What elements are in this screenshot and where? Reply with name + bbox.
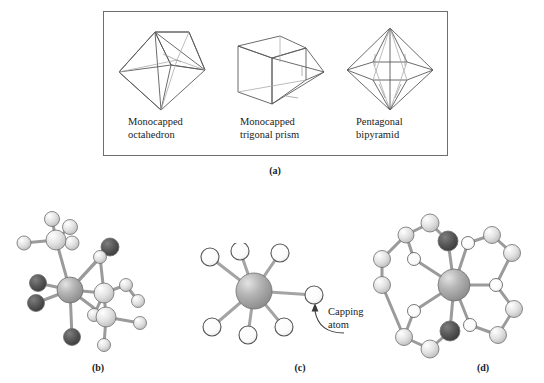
monocapped-octahedron-svg [111,18,221,114]
pentagonal-bipyramid-figure [332,18,447,114]
capping-atom [305,286,323,304]
molecule-d-svg [368,213,540,361]
caption-d: (d) [463,362,503,373]
molecule-c-svg [192,243,352,348]
molecule-b-svg [8,205,208,360]
polyhedra-panel: Monocapped octahedron Monocapped trigona… [103,11,448,156]
molecule-b [8,205,208,360]
monocapped-trigonal-prism-svg [224,18,334,114]
capping-atom-label: Capping atom [328,305,364,331]
caption-a: (a) [255,165,295,176]
polyhedron-label-pentagonal-bipyramid: Pentagonal bipyramid [330,116,474,141]
monocapped-trigonal-prism-figure [221,18,336,114]
caption-b: (b) [78,362,118,373]
central-metal-atom-c [236,273,272,309]
caption-c: (c) [280,362,320,373]
molecule-d [368,213,540,361]
pentagonal-bipyramid-svg [335,18,445,114]
monocapped-octahedron-figure [108,18,223,114]
central-metal-atom-d [438,269,470,301]
molecule-c [192,243,352,348]
